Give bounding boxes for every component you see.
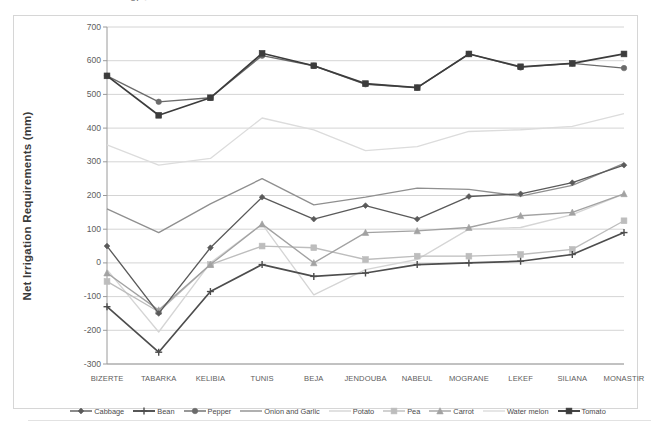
data-point-square bbox=[466, 51, 472, 57]
legend-marker-circle-icon bbox=[184, 406, 206, 416]
data-point-square bbox=[391, 408, 397, 414]
data-point-square bbox=[363, 81, 369, 87]
data-point-square bbox=[569, 60, 575, 66]
data-point-square bbox=[414, 85, 420, 91]
data-point-plus bbox=[465, 259, 472, 266]
data-point-diamond bbox=[363, 203, 369, 209]
legend-marker-triangle-icon bbox=[429, 406, 451, 416]
legend-entry[interactable]: Water melon bbox=[483, 406, 549, 416]
legend-marker-line-icon bbox=[483, 406, 505, 416]
top-edge-artifact: of ● bbox=[0, 0, 647, 14]
series-line bbox=[107, 165, 624, 313]
data-point-plus bbox=[621, 229, 628, 236]
legend-marker-diamond-icon bbox=[70, 406, 92, 416]
data-point-square bbox=[311, 63, 317, 69]
data-point-square bbox=[466, 253, 472, 259]
legend-label: Potato bbox=[353, 407, 374, 416]
data-point-square bbox=[414, 253, 420, 259]
data-point-square bbox=[104, 279, 110, 285]
data-point-plus bbox=[141, 408, 148, 415]
legend-marker-square-icon bbox=[383, 406, 405, 416]
legend-marker-square-filled-icon bbox=[558, 406, 580, 416]
data-point-plus bbox=[414, 261, 421, 268]
series-pepper bbox=[104, 51, 627, 104]
data-point-diamond bbox=[621, 162, 627, 168]
series-onion-and-garlic bbox=[107, 163, 624, 232]
data-point-circle bbox=[156, 99, 162, 105]
data-point-square bbox=[104, 73, 110, 79]
legend-label: Pea bbox=[407, 407, 420, 416]
legend-entry[interactable]: Pepper bbox=[184, 406, 232, 416]
legend-label: Tomato bbox=[582, 407, 606, 416]
data-point-square bbox=[621, 218, 627, 224]
artifact-text: of ● bbox=[130, 0, 149, 3]
data-point-square bbox=[259, 243, 265, 249]
legend-label: Bean bbox=[157, 407, 174, 416]
data-point-square bbox=[208, 95, 214, 101]
data-point-circle bbox=[621, 65, 627, 71]
data-point-square bbox=[621, 51, 627, 57]
legend-label: Pepper bbox=[208, 407, 232, 416]
data-point-square bbox=[311, 245, 317, 251]
legend-entry[interactable]: Tomato bbox=[558, 406, 606, 416]
chart-frame: Net Irrigation Requirements (mm) 7006005… bbox=[13, 15, 638, 409]
series-line bbox=[107, 233, 624, 353]
data-point-square bbox=[518, 64, 524, 70]
legend-entry[interactable]: Potato bbox=[329, 406, 374, 416]
legend-marker-plus-icon bbox=[133, 406, 155, 416]
legend-marker-line-icon bbox=[240, 406, 262, 416]
data-point-diamond bbox=[414, 216, 420, 222]
data-point-triangle bbox=[259, 221, 265, 227]
plot-area bbox=[14, 16, 639, 410]
series-water-melon bbox=[107, 114, 624, 166]
data-point-diamond bbox=[78, 408, 84, 414]
data-point-plus bbox=[310, 273, 317, 280]
legend-entry[interactable]: Onion and Garlic bbox=[240, 406, 319, 416]
data-point-square bbox=[566, 408, 572, 414]
data-point-square bbox=[363, 257, 369, 263]
data-point-plus bbox=[517, 258, 524, 265]
legend-label: Carrot bbox=[453, 407, 474, 416]
data-point-square bbox=[156, 112, 162, 118]
legend-entry[interactable]: Cabbage bbox=[70, 406, 124, 416]
legend-label: Water melon bbox=[507, 407, 549, 416]
data-point-diamond bbox=[466, 194, 472, 200]
legend-entry[interactable]: Pea bbox=[383, 406, 420, 416]
gridlines bbox=[107, 27, 624, 364]
series-bean bbox=[104, 229, 628, 356]
series-line bbox=[107, 114, 624, 166]
data-point-plus bbox=[259, 261, 266, 268]
data-point-square bbox=[518, 252, 524, 258]
legend-entry[interactable]: Carrot bbox=[429, 406, 474, 416]
series-cabbage bbox=[104, 162, 627, 316]
chart-legend: CabbageBeanPepperOnion and GarlicPotatoP… bbox=[28, 402, 648, 420]
legend-label: Onion and Garlic bbox=[264, 407, 319, 416]
legend-marker-line-icon bbox=[329, 406, 351, 416]
legend-entry[interactable]: Bean bbox=[133, 406, 174, 416]
data-point-diamond bbox=[311, 216, 317, 222]
series-line bbox=[107, 163, 624, 232]
legend-label: Cabbage bbox=[94, 407, 124, 416]
data-point-circle bbox=[192, 408, 198, 414]
data-point-square bbox=[259, 50, 265, 56]
data-point-triangle bbox=[621, 191, 627, 197]
